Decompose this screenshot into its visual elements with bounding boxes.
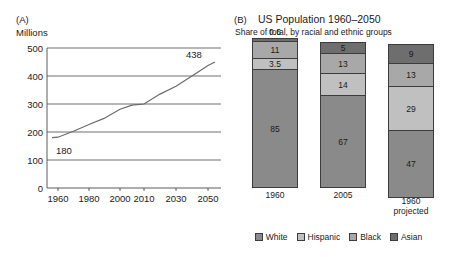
legend-swatch-asian-icon: [390, 233, 398, 241]
x-tick-2010: 2010: [133, 193, 154, 204]
segment-hispanic: 14: [321, 73, 365, 95]
x-tick-2030: 2030: [165, 193, 186, 204]
panel-a-y-axis-title: Millions: [16, 27, 48, 38]
segment-white: 47: [389, 130, 433, 197]
panel-b-stacked-bar-chart: (B) US Population 1960–2050 Share of tot…: [228, 0, 449, 257]
bar-x-label-line1: 1960: [252, 190, 298, 200]
segment-white: 67: [321, 95, 365, 187]
x-tick-2050: 2050: [197, 193, 218, 204]
segment-black: 11: [253, 41, 297, 58]
segment-asian: 9: [389, 45, 433, 63]
legend-label-asian: Asian: [401, 232, 422, 242]
legend-item-black: Black: [349, 232, 381, 242]
y-tick-0: 0: [38, 183, 43, 194]
y-tick-400: 400: [27, 71, 43, 82]
annotation-180: 180: [56, 145, 72, 156]
panel-b-label: (B): [234, 14, 247, 25]
legend-label-black: Black: [360, 232, 381, 242]
bar-x-label: 1960: [252, 190, 298, 200]
legend-swatch-white-icon: [255, 233, 263, 241]
legend-swatch-hispanic-icon: [297, 233, 305, 241]
y-gridlines: [47, 48, 221, 160]
y-tick-100: 100: [27, 155, 43, 166]
y-tick-500: 500: [27, 44, 43, 54]
segment-white: 85: [253, 69, 297, 187]
bar-x-label: 1960 projected: [388, 196, 434, 216]
segment-black: 13: [321, 53, 365, 73]
bar-stack: 11 3.5 85: [252, 38, 298, 188]
x-tick-1980: 1980: [78, 193, 99, 204]
bar-column-1960: 0.6 11 3.5 85 1960: [252, 38, 298, 188]
panel-a-line-chart: (A) Millions 500 400 300 200 10: [0, 0, 228, 257]
x-tick-labels: 1960 1980 2000 2010 2030 2050: [47, 193, 218, 204]
y-tick-labels: 500 400 300 200 100 0: [27, 44, 43, 194]
panel-b-title: US Population 1960–2050: [258, 13, 381, 25]
bar-x-label-line1: 2005: [320, 190, 366, 200]
segment-label-asian-outside: 0.6: [252, 27, 298, 37]
bar-stack: 9 13 29 47: [388, 44, 434, 198]
bar-stack: 5 13 14 67: [320, 42, 366, 188]
legend-item-white: White: [255, 232, 288, 242]
figure-root: (A) Millions 500 400 300 200 10: [0, 0, 449, 257]
x-tick-1960: 1960: [47, 193, 68, 204]
legend-label-hispanic: Hispanic: [308, 232, 341, 242]
legend-item-hispanic: Hispanic: [297, 232, 341, 242]
legend-item-asian: Asian: [390, 232, 422, 242]
segment-hispanic: 29: [389, 86, 433, 130]
x-tick-2000: 2000: [109, 193, 130, 204]
bar-column-2005: 5 13 14 67 2005: [320, 38, 366, 188]
segment-asian: 5: [321, 43, 365, 53]
y-tick-200: 200: [27, 127, 43, 138]
bar-x-label-line2: projected: [388, 206, 434, 216]
population-line-series: [52, 62, 215, 138]
legend-label-white: White: [266, 232, 288, 242]
legend: White Hispanic Black Asian: [228, 232, 449, 242]
bar-x-label: 2005: [320, 190, 366, 200]
segment-hispanic: 3.5: [253, 58, 297, 69]
line-chart-svg: 500 400 300 200 100 0 1960: [16, 44, 222, 212]
bars-area: 0.6 11 3.5 85 1960 5 13 14 67: [228, 38, 449, 223]
bar-x-label-line1: 1960: [388, 196, 434, 206]
panel-a-label: (A): [16, 14, 29, 25]
legend-swatch-black-icon: [349, 233, 357, 241]
segment-black: 13: [389, 63, 433, 86]
y-tick-300: 300: [27, 99, 43, 110]
annotation-438: 438: [186, 49, 202, 60]
panel-a-plot-area: 500 400 300 200 100 0 1960: [16, 44, 222, 216]
bar-column-projected: 9 13 29 47 1960 projected: [388, 38, 434, 198]
